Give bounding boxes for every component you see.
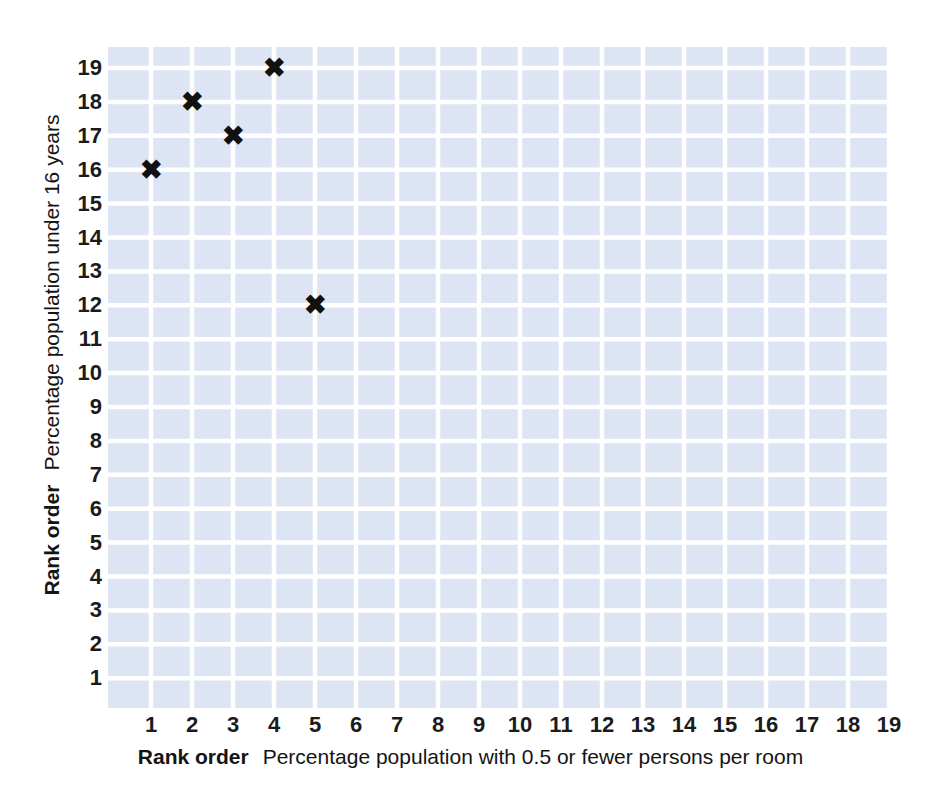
y-axis-tick-label: 1 <box>58 665 102 691</box>
y-axis-tick-label: 15 <box>58 191 102 217</box>
data-points-layer: ✖✖✖✖✖ <box>108 47 890 708</box>
data-point-marker: ✖ <box>263 55 286 82</box>
y-axis-tick-label: 5 <box>58 530 102 556</box>
data-point-marker: ✖ <box>140 156 163 183</box>
y-axis-tick-label: 7 <box>58 462 102 488</box>
data-point-marker: ✖ <box>304 292 327 319</box>
x-axis-title-description: Percentage population with 0.5 or fewer … <box>263 745 803 768</box>
data-point-marker: ✖ <box>181 88 204 115</box>
scatter-chart: 12345678910111213141516171819 Rank order… <box>0 0 931 808</box>
x-axis-title: Rank orderPercentage population with 0.5… <box>0 745 931 769</box>
data-point-marker: ✖ <box>222 122 245 149</box>
y-axis-tick-label: 6 <box>58 496 102 522</box>
y-axis-title-rank: Rank order <box>40 485 63 596</box>
y-axis-tick-labels: 12345678910111213141516171819 <box>58 47 102 708</box>
y-axis-title-description: Percentage population under 16 years <box>40 115 63 471</box>
y-axis-tick-label: 18 <box>58 89 102 115</box>
y-axis-tick-label: 8 <box>58 428 102 454</box>
x-axis-tick-label: 19 <box>864 712 914 738</box>
y-axis-tick-label: 10 <box>58 360 102 386</box>
y-axis-tick-label: 2 <box>58 631 102 657</box>
y-axis-tick-label: 11 <box>58 326 102 352</box>
x-axis-tick-labels: 12345678910111213141516171819 <box>108 712 890 744</box>
y-axis-tick-label: 12 <box>58 292 102 318</box>
y-axis-tick-label: 14 <box>58 225 102 251</box>
y-axis-tick-label: 9 <box>58 394 102 420</box>
y-axis-tick-label: 4 <box>58 564 102 590</box>
y-axis-title: Rank orderPercentage population under 16… <box>40 35 64 675</box>
y-axis-tick-label: 16 <box>58 157 102 183</box>
y-axis-tick-label: 3 <box>58 597 102 623</box>
y-axis-tick-label: 13 <box>58 258 102 284</box>
x-axis-title-rank: Rank order <box>138 745 249 768</box>
y-axis-tick-label: 17 <box>58 123 102 149</box>
plot-area: ✖✖✖✖✖ <box>108 47 890 708</box>
y-axis-tick-label: 19 <box>58 55 102 81</box>
